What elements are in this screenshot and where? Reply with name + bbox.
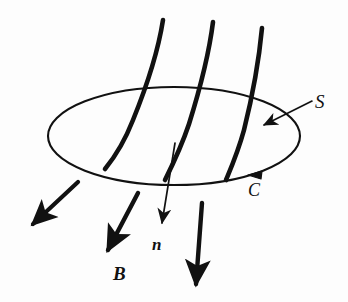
normal-vector-label-n: n [152, 236, 161, 253]
field-arrow-B [108, 193, 138, 250]
surface-boundary-group [48, 87, 300, 185]
field-arrow-right [196, 203, 202, 284]
boundary-label-C: C [248, 181, 260, 199]
field-line-left [105, 20, 163, 169]
field-line-right [226, 28, 262, 180]
magnetic-field-label-B: B [113, 264, 126, 283]
magnetic-field-lines-group [105, 20, 262, 180]
surface-label-S: S [315, 92, 325, 111]
diagram-canvas [0, 0, 348, 302]
field-arrow-outer-left [33, 182, 78, 224]
boundary-direction-arrowhead [248, 171, 262, 179]
magnetic-flux-diagram: S C n B [0, 0, 348, 302]
normal-vector-arrow [162, 143, 175, 223]
boundary-curve-C [48, 87, 300, 185]
